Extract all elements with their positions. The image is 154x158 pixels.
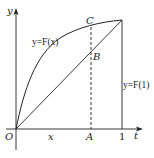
origin-label: O	[5, 131, 13, 142]
tick-label-one: 1	[119, 131, 125, 142]
curve-label: y=F(x)	[32, 37, 58, 48]
point-C-label: C	[86, 15, 94, 26]
vertical-line-label: y=F(1)	[123, 80, 149, 91]
tick-label-x: x	[48, 131, 54, 142]
x-axis-label: t	[134, 130, 139, 141]
tick-label-A: A	[85, 131, 93, 142]
y-axis-label: y	[6, 5, 13, 16]
function-graph-diagram: y t O x A 1 y=F(x) y=F(1) C B	[0, 0, 154, 158]
point-B-label: B	[92, 51, 100, 62]
